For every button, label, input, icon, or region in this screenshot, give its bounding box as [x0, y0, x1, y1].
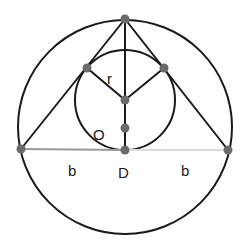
label-b-left: b — [68, 162, 76, 179]
label-d: D — [118, 164, 129, 181]
geometry-diagram: r O D b b — [0, 0, 247, 251]
base-left-segment — [21, 149, 125, 150]
side-right — [125, 19, 228, 150]
point-d — [121, 146, 130, 155]
radius-right — [125, 68, 164, 100]
point-mid — [121, 124, 130, 133]
label-b-right: b — [181, 162, 189, 179]
point-right — [224, 146, 233, 155]
point-tangent-left — [83, 64, 92, 73]
point-incenter — [121, 96, 130, 105]
radius-left — [87, 68, 125, 100]
point-apex — [121, 15, 130, 24]
label-o: O — [93, 126, 105, 143]
label-r: r — [107, 70, 112, 87]
point-tangent-right — [160, 64, 169, 73]
point-left — [17, 145, 26, 154]
